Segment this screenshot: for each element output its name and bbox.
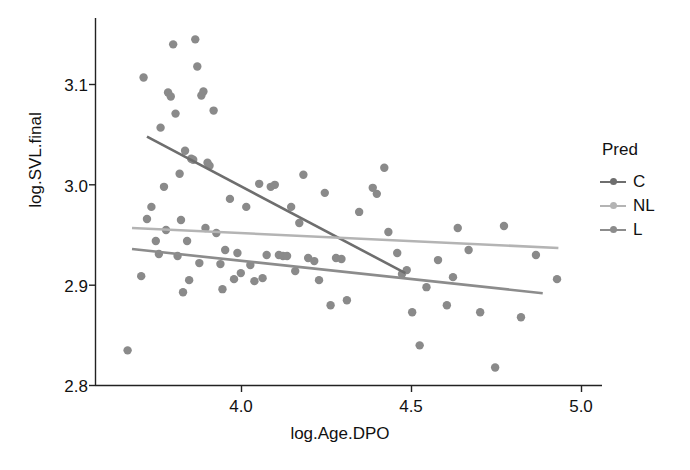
data-point <box>532 251 540 259</box>
regression-line-nl <box>132 228 558 248</box>
data-point <box>422 283 430 291</box>
data-point <box>393 249 401 257</box>
data-point <box>147 203 155 211</box>
data-point <box>242 203 250 211</box>
legend-key-line-icon <box>600 175 626 189</box>
data-point <box>449 273 457 281</box>
data-point <box>315 276 323 284</box>
data-point <box>380 164 388 172</box>
data-point <box>553 275 561 283</box>
data-point <box>160 183 168 191</box>
data-point <box>233 249 241 257</box>
data-point <box>143 215 151 223</box>
data-point <box>139 73 147 81</box>
data-point <box>218 285 226 293</box>
data-point <box>408 308 416 316</box>
data-point <box>454 224 462 232</box>
data-point <box>183 237 191 245</box>
data-point <box>415 341 423 349</box>
data-point <box>221 246 229 254</box>
data-point <box>283 252 291 260</box>
data-point <box>258 274 266 282</box>
scatter-plot-figure: log.SVL.final 3.1 3.0 2.9 2.8 4.0 4.5 5.… <box>0 0 690 470</box>
data-point <box>156 123 164 131</box>
data-point <box>181 147 189 155</box>
data-point <box>271 181 279 189</box>
data-point <box>500 222 508 230</box>
data-point <box>209 106 217 114</box>
data-point <box>179 288 187 296</box>
legend-label: C <box>633 173 645 190</box>
data-point <box>262 251 270 259</box>
data-point <box>177 216 185 224</box>
data-point <box>384 228 392 236</box>
data-point <box>195 259 203 267</box>
data-point <box>434 256 442 264</box>
data-point <box>491 363 499 371</box>
legend: Pred C NL L <box>600 140 686 243</box>
legend-key-line-icon <box>600 199 626 213</box>
legend-label: L <box>633 221 642 238</box>
data-point <box>199 87 207 95</box>
data-point <box>167 92 175 100</box>
data-point <box>193 62 201 70</box>
data-point <box>321 189 329 197</box>
data-point <box>310 257 318 265</box>
data-point <box>355 208 363 216</box>
data-point <box>175 170 183 178</box>
data-points-layer <box>123 35 561 371</box>
data-point <box>326 301 334 309</box>
data-point <box>152 237 160 245</box>
data-point <box>343 296 351 304</box>
data-point <box>517 313 525 321</box>
data-point <box>255 180 263 188</box>
data-point <box>216 260 224 268</box>
legend-key-line-icon <box>600 223 626 237</box>
legend-item-l[interactable]: L <box>600 219 686 240</box>
legend-label: NL <box>633 197 655 214</box>
x-axis-ticks <box>242 386 582 393</box>
legend-item-nl[interactable]: NL <box>600 195 686 216</box>
data-point <box>191 35 199 43</box>
data-point <box>169 40 177 48</box>
data-point <box>137 272 145 280</box>
plot-canvas <box>0 0 690 470</box>
data-point <box>123 346 131 354</box>
data-point <box>230 275 238 283</box>
data-point <box>337 255 345 263</box>
y-axis-ticks <box>89 85 95 386</box>
data-point <box>464 246 472 254</box>
data-point <box>226 195 234 203</box>
data-point <box>373 190 381 198</box>
data-point <box>185 276 193 284</box>
data-point <box>299 171 307 179</box>
data-point <box>443 301 451 309</box>
data-point <box>476 308 484 316</box>
data-point <box>250 277 258 285</box>
legend-title: Pred <box>602 140 686 160</box>
legend-item-c[interactable]: C <box>600 171 686 192</box>
data-point <box>171 109 179 117</box>
data-point <box>237 269 245 277</box>
